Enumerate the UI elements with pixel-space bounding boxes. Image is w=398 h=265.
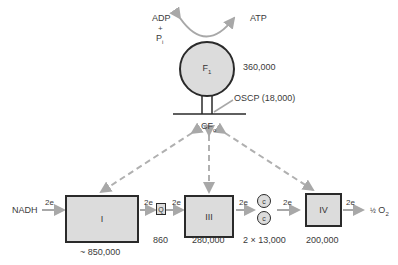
complex-i-mass: ~ 850,000 xyxy=(80,248,120,257)
cf0-label: CFo xyxy=(201,122,216,133)
f1-headpiece: F1 xyxy=(179,41,235,97)
electron-label: 2e xyxy=(346,199,355,207)
complex-i: I xyxy=(65,195,139,243)
complex-iv: IV xyxy=(305,193,342,227)
complex-iii-mass: 280,000 xyxy=(192,236,225,245)
atp-label: ATP xyxy=(250,14,267,23)
cytochrome-c-1: c xyxy=(257,194,271,208)
f1-mass: 360,000 xyxy=(243,63,276,72)
complex-iii: III xyxy=(184,195,234,238)
cytochrome-c-mass: 2 × 13,000 xyxy=(243,236,286,245)
adp-label: ADP xyxy=(152,14,171,23)
cytochrome-c-2: c xyxy=(257,211,271,225)
nadh-label: NADH xyxy=(12,206,38,215)
oscp-label: OSCP (18,000) xyxy=(234,94,295,103)
electron-label: 2e xyxy=(172,199,181,207)
ubiquinone-q: Q xyxy=(156,203,166,215)
oxygen-label: ½ O2 xyxy=(370,206,389,217)
q-mass: 860 xyxy=(153,236,168,245)
plus-label: + xyxy=(158,25,163,33)
electron-label: 2e xyxy=(283,199,292,207)
f1-label: F1 xyxy=(203,63,212,75)
electron-label: 2e xyxy=(144,199,153,207)
electron-label: 2e xyxy=(239,199,248,207)
complex-iv-mass: 200,000 xyxy=(306,236,339,245)
pi-label: Pi xyxy=(156,34,163,45)
atp-synthesis-arrow xyxy=(180,18,234,37)
electron-label: 2e xyxy=(45,199,54,207)
